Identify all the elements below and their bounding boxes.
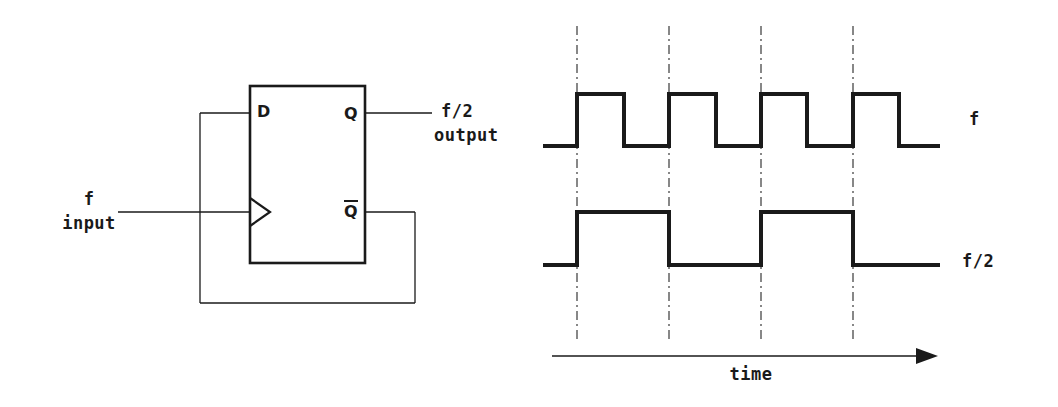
pin-label-qbar: Q <box>344 202 358 221</box>
input-label-line1: f <box>84 189 95 209</box>
marker-lines-group <box>577 26 853 342</box>
time-axis-label: time <box>730 364 773 384</box>
output-label-line1: f/2 <box>441 101 473 121</box>
clock-triangle-icon <box>250 198 270 226</box>
output-label-line2: output <box>434 125 498 145</box>
waveform-label-f-over-2: f/2 <box>962 251 994 271</box>
pin-label-d: D <box>257 102 270 121</box>
pin-label-qbar-text: Q <box>344 202 358 221</box>
flip-flop-circuit <box>118 86 432 303</box>
input-label-line2: input <box>62 213 116 233</box>
time-axis-arrow <box>552 348 938 364</box>
waveform-label-f: f <box>969 109 980 129</box>
arrowhead-icon <box>916 348 938 364</box>
figure-canvas: D Q Q f input f/2 output f f/2 time <box>0 0 1058 407</box>
waveform-f-over-2 <box>543 212 940 265</box>
figure-vector-layer <box>0 0 1058 407</box>
pin-label-q: Q <box>344 104 358 123</box>
waveform-f <box>543 94 940 146</box>
timing-diagram <box>543 26 940 364</box>
